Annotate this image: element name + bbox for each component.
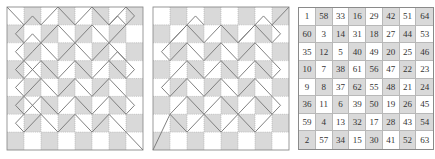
grid-cell — [238, 7, 255, 25]
number-cell: 4 — [316, 114, 333, 132]
grid-cell — [204, 7, 221, 25]
grid-cell — [272, 114, 289, 132]
number-cell: 60 — [299, 26, 316, 44]
number-cell: 6 — [333, 96, 350, 114]
number-cell: 24 — [416, 79, 433, 97]
grid-cell — [92, 132, 109, 150]
grid-cell — [109, 132, 126, 150]
number-cell: 5 — [333, 43, 350, 61]
grid-cell — [153, 132, 170, 150]
grid-cell — [126, 43, 143, 61]
number-cell: 51 — [400, 8, 417, 26]
number-cell: 22 — [400, 61, 417, 79]
grid-cell — [153, 61, 170, 79]
number-cell: 39 — [349, 96, 366, 114]
number-cell: 55 — [366, 79, 383, 97]
number-cell: 35 — [299, 43, 316, 61]
number-cell: 11 — [316, 96, 333, 114]
number-cell: 54 — [416, 114, 433, 132]
grid-cell — [153, 25, 170, 43]
number-cell: 10 — [299, 61, 316, 79]
number-cell: 59 — [299, 114, 316, 132]
number-cell: 64 — [416, 8, 433, 26]
number-cell: 52 — [400, 131, 417, 149]
number-cell: 2 — [299, 131, 316, 149]
grid-cell — [41, 132, 58, 150]
number-cell: 42 — [383, 8, 400, 26]
number-cell: 18 — [366, 26, 383, 44]
number-cell: 31 — [349, 26, 366, 44]
number-cell: 61 — [349, 61, 366, 79]
number-cell: 62 — [349, 79, 366, 97]
number-cell: 16 — [349, 8, 366, 26]
number-cell: 36 — [299, 96, 316, 114]
number-cell: 37 — [333, 79, 350, 97]
number-cell: 17 — [366, 114, 383, 132]
number-cell: 14 — [333, 26, 350, 44]
grid-cell — [153, 96, 170, 114]
number-cell: 46 — [416, 43, 433, 61]
number-cell: 48 — [383, 79, 400, 97]
grid-cell — [58, 132, 75, 150]
grid-cell — [126, 25, 143, 43]
number-grid-panel: 1583316294251646031431182744533512540492… — [298, 7, 434, 150]
grid-cell — [126, 79, 143, 97]
number-cell: 30 — [366, 131, 383, 149]
number-cell: 49 — [366, 43, 383, 61]
number-cell: 41 — [383, 131, 400, 149]
number-cell: 25 — [400, 43, 417, 61]
grid-cell — [255, 132, 272, 150]
grid-cell — [221, 132, 238, 150]
number-grid: 1583316294251646031431182744533512540492… — [298, 7, 434, 150]
number-cell: 9 — [299, 79, 316, 97]
path-diagram-panel-1 — [7, 7, 143, 150]
grid-cell — [170, 7, 187, 25]
number-cell: 12 — [316, 43, 333, 61]
number-cell: 8 — [316, 79, 333, 97]
number-cell: 50 — [366, 96, 383, 114]
grid-cell — [272, 43, 289, 61]
number-cell: 57 — [316, 131, 333, 149]
grid-cell — [24, 132, 41, 150]
number-cell: 34 — [333, 131, 350, 149]
number-cell: 28 — [383, 114, 400, 132]
grid-cell — [153, 7, 170, 25]
path-diagram-1-svg — [7, 7, 143, 150]
number-cell: 44 — [400, 26, 417, 44]
grid-cell — [187, 132, 204, 150]
number-cell: 56 — [366, 61, 383, 79]
number-cell: 63 — [416, 131, 433, 149]
number-cell: 15 — [349, 131, 366, 149]
grid-cell — [126, 114, 143, 132]
number-cell: 20 — [383, 43, 400, 61]
number-cell: 40 — [349, 43, 366, 61]
number-cell: 45 — [416, 96, 433, 114]
path-diagram-panel-2 — [153, 7, 289, 150]
number-cell: 53 — [416, 26, 433, 44]
number-cell: 32 — [349, 114, 366, 132]
grid-cell — [272, 132, 289, 150]
grid-cell — [153, 114, 170, 132]
number-cell: 33 — [333, 8, 350, 26]
path-diagram-2-svg — [153, 7, 289, 150]
number-cell: 27 — [383, 26, 400, 44]
number-cell: 7 — [316, 61, 333, 79]
number-cell: 19 — [383, 96, 400, 114]
grid-cell — [7, 132, 24, 150]
number-cell: 43 — [400, 114, 417, 132]
grid-cell — [75, 132, 92, 150]
number-cell: 13 — [333, 114, 350, 132]
grid-cell — [204, 132, 221, 150]
number-cell: 21 — [400, 79, 417, 97]
number-cell: 47 — [383, 61, 400, 79]
number-cell: 29 — [366, 8, 383, 26]
number-cell: 58 — [316, 8, 333, 26]
number-cell: 23 — [416, 61, 433, 79]
grid-cell — [221, 7, 238, 25]
grid-cell — [238, 132, 255, 150]
number-cell: 38 — [333, 61, 350, 79]
number-cell: 26 — [400, 96, 417, 114]
grid-cell — [272, 79, 289, 97]
number-cell: 3 — [316, 26, 333, 44]
grid-cell — [170, 132, 187, 150]
